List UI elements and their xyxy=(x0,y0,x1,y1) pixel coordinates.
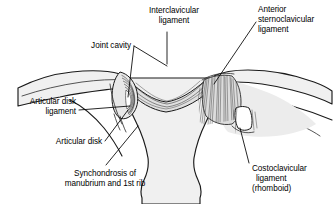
label-synchondrosis-line2: manubrium and 1st rib xyxy=(65,179,146,188)
label-anterior-sternoclavicular-line1: Anterior xyxy=(258,5,287,14)
label-articular-disk-line1: Articular disk xyxy=(56,137,103,146)
label-articular-disk: Articular disk xyxy=(56,137,103,146)
leader-synchondrosis xyxy=(106,126,138,165)
label-interclavicular-ligament: Interclavicular ligament xyxy=(149,6,199,25)
label-joint-cavity: Joint cavity xyxy=(91,41,132,50)
label-articular-disk-ligament-line1: Articular disk xyxy=(30,97,77,106)
label-anterior-sternoclavicular-ligament: Anterior sternoclavicular ligament xyxy=(258,5,314,34)
label-costoclavicular-line3: (rhomboid) xyxy=(252,184,291,193)
leader-joint-cavity xyxy=(134,46,167,66)
label-interclavicular-line1: Interclavicular xyxy=(149,6,199,15)
label-costoclavicular-ligament: Costoclavicular ligament (rhomboid) xyxy=(252,164,307,193)
label-costoclavicular-line1: Costoclavicular xyxy=(252,164,307,173)
label-articular-disk-ligament-line2: ligament xyxy=(45,107,76,116)
anatomical-figure-sternoclavicular-joint: Interclavicular ligament Anterior sterno… xyxy=(0,0,334,204)
label-synchondrosis: Synchondrosis of manubrium and 1st rib xyxy=(65,169,146,188)
label-anterior-sternoclavicular-line2: sternoclavicular xyxy=(258,15,314,24)
label-synchondrosis-line1: Synchondrosis of xyxy=(74,169,137,178)
label-articular-disk-ligament: Articular disk ligament xyxy=(30,97,77,116)
label-interclavicular-line2: ligament xyxy=(159,16,190,25)
label-costoclavicular-line2: ligament xyxy=(256,174,287,183)
label-joint-cavity-line1: Joint cavity xyxy=(91,41,132,50)
label-anterior-sternoclavicular-line3: ligament xyxy=(258,25,289,34)
